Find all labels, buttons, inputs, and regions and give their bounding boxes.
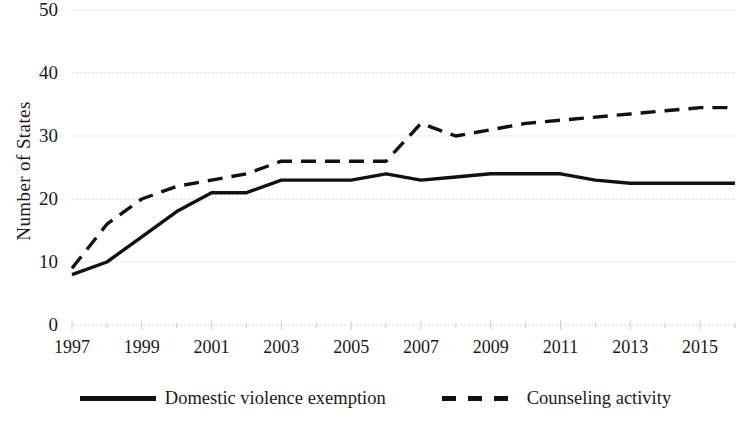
x-tick-label: 2001	[182, 337, 242, 358]
x-tick-label: 1997	[42, 337, 102, 358]
x-tick-label: 2015	[670, 337, 730, 358]
legend-label: Domestic violence exemption	[165, 388, 386, 409]
chart-legend: Domestic violence exemption Counseling a…	[0, 388, 751, 409]
legend-item-counseling-activity: Counseling activity	[442, 388, 671, 409]
x-axis-tick-labels: 1997199920012003200520072009201120132015	[0, 0, 751, 423]
legend-swatch-solid-line-icon	[80, 396, 156, 401]
legend-item-domestic-violence-exemption: Domestic violence exemption	[80, 388, 386, 409]
x-tick-label: 2009	[461, 337, 521, 358]
x-tick-label: 2013	[600, 337, 660, 358]
x-tick-label: 2003	[251, 337, 311, 358]
x-tick-label: 2005	[321, 337, 381, 358]
x-tick-label: 2011	[531, 337, 591, 358]
x-tick-label: 2007	[391, 337, 451, 358]
chart-figure: Number of States 50403020100 19971999200…	[0, 0, 751, 423]
legend-swatch-dashed-line-icon	[442, 396, 518, 401]
legend-label: Counseling activity	[527, 388, 671, 409]
x-tick-label: 1999	[112, 337, 172, 358]
